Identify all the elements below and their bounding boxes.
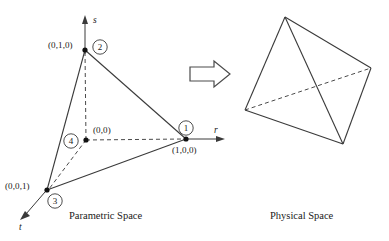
edge-pC-pD xyxy=(245,110,343,144)
node-number-2: 2 xyxy=(93,43,107,52)
node-dot-1 xyxy=(183,136,188,141)
caption-parametric-space: Parametric Space xyxy=(69,211,142,222)
parametric-solid-edges xyxy=(47,50,186,190)
transform-arrow-icon xyxy=(190,61,230,87)
axis-r xyxy=(188,136,225,142)
axis-label-t: t xyxy=(19,223,22,233)
physical-dashed-edges xyxy=(245,68,371,110)
node-coord-label-1: (1,0,0) xyxy=(172,146,197,155)
node-dot-4 xyxy=(83,137,88,142)
node-coord-label-4: (0,0) xyxy=(93,126,111,135)
node-dot-2 xyxy=(82,47,87,52)
node-number-3: 3 xyxy=(48,197,62,206)
edge-pD-pB xyxy=(245,68,371,110)
edge-pB-pC xyxy=(343,68,371,144)
node-dot-3 xyxy=(44,187,49,192)
edge-4-1 xyxy=(86,139,184,140)
axis-label-r: r xyxy=(214,126,218,136)
node-coord-label-2: (0,1,0) xyxy=(48,41,73,50)
axis-label-s: s xyxy=(93,16,97,26)
node-coord-label-3: (0,0,1) xyxy=(5,182,30,191)
node-number-1: 1 xyxy=(179,124,193,133)
figure-root: s r t (0,1,0) (1,0,0) (0,0,1) (0,0) 1 2 … xyxy=(0,0,389,241)
node-number-4: 4 xyxy=(64,137,78,146)
physical-solid-edges xyxy=(245,17,371,144)
caption-physical-space: Physical Space xyxy=(270,211,333,222)
parametric-node-circles xyxy=(48,40,193,208)
axis-t xyxy=(20,192,45,220)
edge-pA-pB xyxy=(285,17,371,68)
physical-space-group xyxy=(245,17,371,144)
parametric-dashed-edges xyxy=(49,52,184,189)
edge-pD-pA xyxy=(245,17,285,110)
edge-4-2 xyxy=(85,52,86,140)
edge-2-3 xyxy=(47,50,85,190)
